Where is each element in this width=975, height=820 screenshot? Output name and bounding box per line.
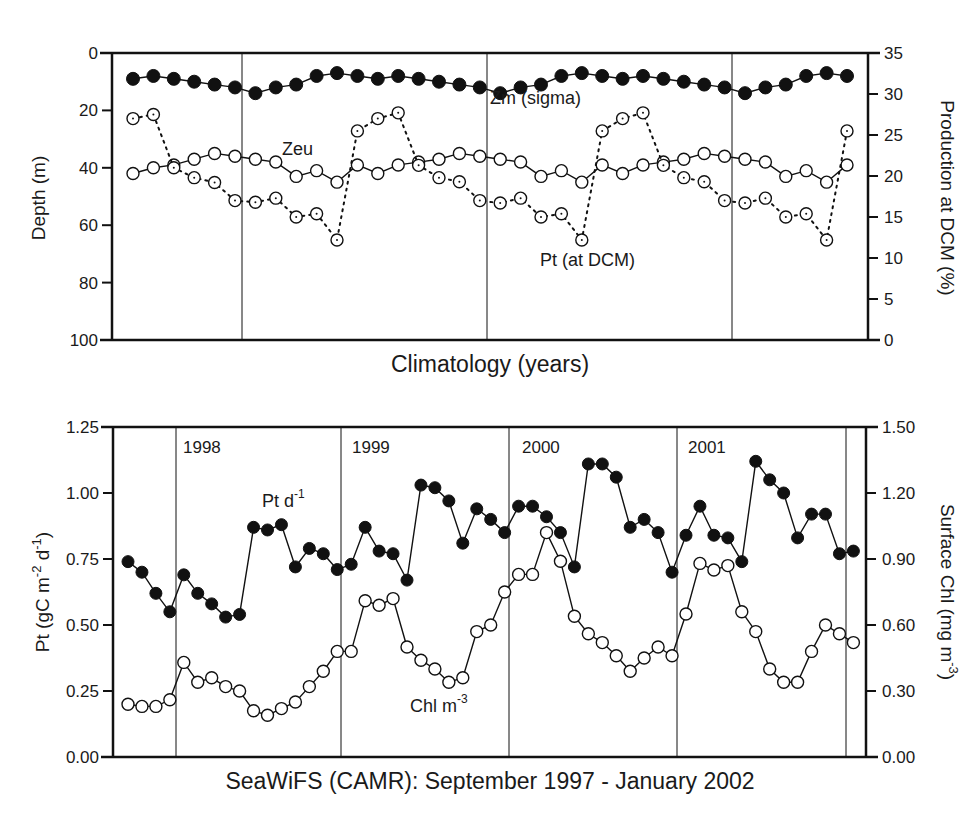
zm-marker (127, 72, 140, 85)
pt-daily-marker (164, 606, 176, 618)
year-label-2001: 2001 (688, 438, 726, 457)
pt-dcm-marker-dot (724, 200, 726, 202)
pt-daily-marker (317, 548, 329, 560)
pt-daily-marker (680, 529, 692, 541)
zeu-marker (841, 159, 853, 171)
zm-marker (637, 69, 650, 82)
pt-dcm-marker-dot (764, 197, 766, 199)
zm-marker (616, 72, 629, 85)
y-tick-label-right: 0.60 (882, 616, 915, 635)
pt-daily-marker (527, 500, 539, 512)
chl-marker (680, 608, 692, 620)
pt-dcm-marker-dot (152, 114, 154, 116)
zeu-marker (433, 153, 445, 165)
zeu-marker (617, 168, 629, 180)
y-tick-label-right: 20 (884, 167, 903, 186)
pt-dcm-marker-dot (703, 181, 705, 183)
y-tick-label-left: 1.00 (66, 484, 99, 503)
chl-marker (359, 595, 371, 607)
zm-marker (371, 72, 384, 85)
plot-series (122, 455, 859, 721)
pt-daily-marker (457, 537, 469, 549)
chl-marker (331, 645, 343, 657)
zm-marker (739, 87, 752, 100)
x-axis-title: SeaWiFS (CAMR): September 1997 - January… (225, 768, 754, 794)
zeu-marker (188, 153, 200, 165)
y-axis-title-left: Pt (gC m-2 d-1) (29, 532, 53, 652)
pt-daily-marker (443, 495, 455, 507)
y-tick-label-right: 0 (884, 331, 893, 350)
zm-marker (575, 67, 588, 80)
chl-marker (722, 560, 734, 572)
zm-marker (433, 75, 446, 88)
zm-marker (800, 69, 813, 82)
zeu-marker (698, 147, 710, 159)
pt-daily-marker (345, 558, 357, 570)
pt-daily-marker (248, 521, 260, 533)
y-tick-label-right: 30 (884, 85, 903, 104)
chl-marker (289, 696, 301, 708)
zm-marker (596, 69, 609, 82)
pt-daily-marker (513, 500, 525, 512)
chl-marker (638, 652, 650, 664)
zm-marker (351, 69, 364, 82)
zm-marker (555, 69, 568, 82)
pt-daily-marker (722, 532, 734, 544)
pt-dcm-marker-dot (295, 216, 297, 218)
chl-marker (220, 681, 232, 693)
zm-marker (310, 69, 323, 82)
zeu-marker (209, 147, 221, 159)
pt-daily-marker (275, 519, 287, 531)
y-tick-label-right: 1.20 (882, 484, 915, 503)
pt-dcm-marker-dot (377, 118, 379, 120)
pt-daily-marker (736, 556, 748, 568)
chl-marker (833, 628, 845, 640)
y-tick-label-right: 0.90 (882, 550, 915, 569)
pt-daily-marker (387, 548, 399, 560)
y-tick-label-right: 0.30 (882, 682, 915, 701)
pt-daily-marker (708, 529, 720, 541)
pt-dcm-marker-dot (785, 216, 787, 218)
chl-marker (122, 698, 134, 710)
zeu-marker (821, 176, 833, 188)
zeu-marker (270, 156, 282, 168)
pt-dcm-marker-dot (234, 200, 236, 202)
zm-marker (841, 69, 854, 82)
y-tick-label-left: 0 (89, 44, 98, 63)
pt-dcm-marker-dot (336, 239, 338, 241)
zm-marker (208, 78, 221, 91)
zeu-marker (351, 159, 363, 171)
chl-marker (694, 557, 706, 569)
zm-marker (718, 81, 731, 94)
zm-marker (167, 72, 180, 85)
chl-marker (764, 663, 776, 675)
pt-daily-marker (568, 561, 580, 573)
zeu-marker (372, 168, 384, 180)
zeu-marker (759, 156, 771, 168)
pt-dcm-marker-dot (744, 202, 746, 204)
pt-dcm-marker-dot (581, 239, 583, 241)
y-tick-label-left: 1.25 (66, 418, 99, 437)
pt-dcm-marker-dot (479, 200, 481, 202)
chl-marker (275, 703, 287, 715)
pt-daily-marker (401, 574, 413, 586)
y-axis-title-right: Surface Chl (mg m-3) (937, 504, 961, 680)
chl-marker (541, 527, 553, 539)
zm-marker (820, 67, 833, 80)
pt-daily-marker (610, 471, 622, 483)
pt-dcm-marker-dot (520, 197, 522, 199)
pt-daily-marker (792, 532, 804, 544)
zm-marker (412, 72, 425, 85)
chl-marker (415, 654, 427, 666)
y-axis-title-left: Depth (m) (28, 156, 49, 240)
pt-daily-marker (764, 474, 776, 486)
year-dividers (242, 53, 732, 340)
zm-marker (759, 81, 772, 94)
pt-daily-marker (666, 566, 678, 578)
chl-marker (443, 676, 455, 688)
chl-marker (248, 705, 260, 717)
pt-dcm-marker-dot (316, 213, 318, 215)
zeu-marker (474, 150, 486, 162)
zeu-marker (249, 153, 261, 165)
y-tick-label-right: 15 (884, 208, 903, 227)
